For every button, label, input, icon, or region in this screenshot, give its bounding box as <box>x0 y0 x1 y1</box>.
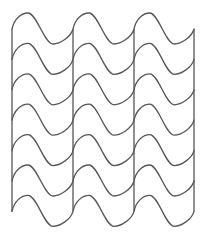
wave-line-2 <box>12 43 194 74</box>
wave-line-7 <box>12 195 194 226</box>
wave-line-1 <box>12 13 194 44</box>
wave-line-3 <box>12 74 194 105</box>
wave-line-6 <box>12 165 194 196</box>
wave-line-5 <box>12 135 194 166</box>
wave-lines <box>12 13 194 226</box>
wave-pattern-diagram <box>0 0 207 247</box>
wave-pattern-canvas <box>0 0 207 247</box>
wave-line-4 <box>12 104 194 135</box>
